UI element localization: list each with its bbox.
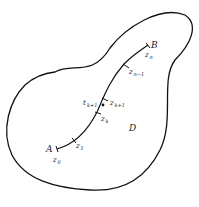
svg-text:z: z	[128, 68, 133, 76]
svg-text:t: t	[83, 99, 86, 107]
integration-path	[57, 45, 148, 149]
contour-diagram: A B D z 0 z 1 z k t k+1 z k+1 z n−1 z n	[0, 0, 199, 207]
svg-text:z: z	[75, 142, 80, 150]
tk1-point	[102, 104, 105, 107]
svg-text:z: z	[144, 51, 149, 59]
svg-text:0: 0	[58, 159, 62, 165]
label-zk1: z k+1	[109, 99, 125, 108]
region-boundary	[7, 13, 193, 191]
label-zn1: z n−1	[128, 68, 144, 77]
svg-text:1: 1	[81, 145, 84, 151]
label-z1: z 1	[75, 142, 84, 151]
label-zk: z k	[100, 115, 109, 124]
label-z0: z 0	[52, 156, 62, 165]
svg-text:n−1: n−1	[134, 71, 145, 77]
label-A: A	[45, 144, 53, 154]
svg-text:z: z	[109, 99, 114, 107]
label-B: B	[150, 40, 158, 50]
svg-text:z: z	[52, 156, 57, 164]
svg-text:k: k	[106, 118, 109, 124]
label-tk1: t k+1	[83, 99, 97, 108]
svg-text:n: n	[150, 54, 153, 60]
label-D: D	[128, 123, 136, 133]
svg-text:k+1: k+1	[115, 102, 125, 108]
svg-text:z: z	[100, 115, 105, 123]
svg-text:k+1: k+1	[87, 102, 97, 108]
label-zn: z n	[144, 51, 153, 60]
